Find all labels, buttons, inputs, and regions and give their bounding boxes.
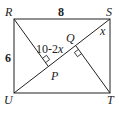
point-label-q: Q (66, 31, 75, 45)
angle-label-s: x (99, 24, 106, 38)
right-angle-mark-q (74, 49, 81, 56)
vertex-label-s: S (106, 5, 112, 19)
segment-label-rp: 10-2x (36, 42, 64, 56)
segment-label-rp-number: 10-2 (36, 42, 58, 56)
segment-label-rp-var: x (57, 42, 64, 56)
side-label-ru: 6 (5, 51, 11, 65)
vertex-label-r: R (4, 5, 13, 19)
geometry-figure: R 8 S x Q 10-2x 6 P U T (0, 0, 119, 121)
point-label-p: P (50, 69, 59, 83)
right-angle-mark-p (43, 55, 50, 62)
vertex-label-u: U (4, 93, 14, 107)
vertex-label-t: T (107, 93, 115, 107)
side-label-rs: 8 (58, 5, 64, 19)
segment-tq (76, 46, 110, 93)
diagonal-us (14, 19, 110, 93)
